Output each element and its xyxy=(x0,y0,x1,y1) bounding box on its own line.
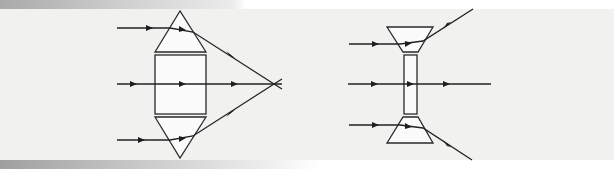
converging-lens-model xyxy=(117,11,282,158)
arrow-icon xyxy=(371,81,378,87)
arrow-icon xyxy=(372,41,379,47)
focal-point-mark xyxy=(274,84,282,89)
arrow-icon xyxy=(146,25,153,31)
arrow-icon xyxy=(231,81,238,87)
arrow-icon xyxy=(443,140,451,147)
arrow-icon xyxy=(138,137,145,143)
arrow-icon xyxy=(372,122,379,128)
arrow-icon xyxy=(130,81,137,87)
focal-point-mark xyxy=(274,79,282,84)
optics-diagram xyxy=(0,0,614,169)
arrow-icon xyxy=(443,81,450,87)
diverging-lens-model xyxy=(348,9,491,160)
